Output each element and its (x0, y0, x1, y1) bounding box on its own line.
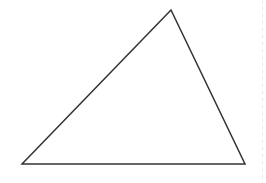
triangle-shape (22, 10, 245, 164)
scan-edge-artifact (262, 0, 263, 183)
diagram-canvas (0, 0, 266, 183)
triangle-figure (0, 0, 266, 183)
